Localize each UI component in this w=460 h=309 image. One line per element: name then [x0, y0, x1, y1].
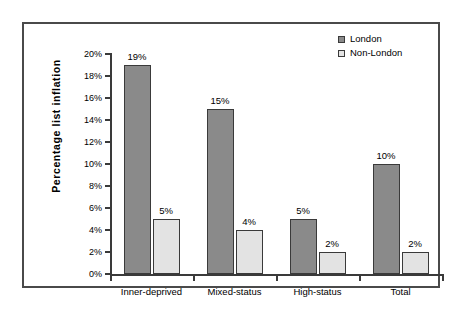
bar-value-label: 5% — [296, 205, 310, 216]
bar-value-label: 2% — [325, 238, 339, 249]
x-axis-category-label: Total — [390, 286, 410, 297]
bar-value-label: 4% — [242, 216, 256, 227]
bar[interactable] — [402, 252, 429, 274]
bar-value-label: 15% — [210, 95, 229, 106]
y-axis-tick — [105, 53, 112, 55]
y-axis-tick — [105, 119, 112, 121]
x-axis-tick — [276, 274, 278, 281]
x-axis-category-label: Mixed-status — [208, 286, 262, 297]
x-axis-tick — [193, 274, 195, 281]
bar-value-label: 19% — [127, 51, 146, 62]
bar[interactable] — [207, 109, 234, 274]
x-axis-tick — [110, 274, 112, 281]
bar-value-label: 10% — [376, 150, 395, 161]
x-axis-tick — [359, 274, 361, 281]
y-axis-tick-label: 2% — [89, 247, 102, 257]
y-axis-title: Percentage list inflation — [50, 26, 62, 226]
y-axis-tick-label: 8% — [89, 181, 102, 191]
chart-frame: Percentage list inflation London Non-Lon… — [22, 22, 440, 288]
x-axis-category-label: High-status — [293, 286, 341, 297]
y-axis-tick — [105, 75, 112, 77]
x-axis-tick — [442, 274, 444, 281]
bar[interactable] — [236, 230, 263, 274]
x-axis-category-label: Inner-deprived — [121, 286, 182, 297]
legend-item-london[interactable]: London — [338, 32, 402, 46]
plot-area: 0%2%4%6%8%10%12%14%16%18%20% 19%5%15%4%5… — [110, 54, 442, 276]
y-axis-tick — [105, 207, 112, 209]
y-axis-tick-label: 6% — [89, 203, 102, 213]
bar-value-label: 5% — [159, 205, 173, 216]
y-axis-tick — [105, 229, 112, 231]
bar[interactable] — [319, 252, 346, 274]
y-axis-tick — [105, 185, 112, 187]
y-axis-tick-label: 4% — [89, 225, 102, 235]
legend-label-london: London — [350, 34, 382, 44]
figure: Percentage list inflation London Non-Lon… — [0, 0, 460, 309]
bar[interactable] — [153, 219, 180, 274]
bar[interactable] — [373, 164, 400, 274]
y-axis-line — [110, 54, 112, 276]
y-axis-tick-label: 12% — [84, 137, 102, 147]
y-axis-tick-label: 20% — [84, 49, 102, 59]
bar[interactable] — [124, 65, 151, 274]
y-axis-tick — [105, 163, 112, 165]
y-axis-tick-label: 14% — [84, 115, 102, 125]
y-axis-tick-label: 10% — [84, 159, 102, 169]
y-axis-tick — [105, 141, 112, 143]
y-axis-tick-label: 18% — [84, 71, 102, 81]
y-axis-tick — [105, 251, 112, 253]
y-axis-tick — [105, 97, 112, 99]
legend-swatch-icon-london — [338, 36, 345, 43]
y-axis-tick-label: 0% — [89, 269, 102, 279]
bar[interactable] — [290, 219, 317, 274]
y-axis-tick-label: 16% — [84, 93, 102, 103]
bar-value-label: 2% — [408, 238, 422, 249]
